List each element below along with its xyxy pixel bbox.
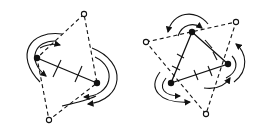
- left-flow-curve: [62, 96, 96, 106]
- open-vertex: [233, 19, 238, 24]
- filled-vertex: [34, 55, 40, 61]
- right-flow-curve: [155, 72, 190, 102]
- open-vertex: [46, 117, 51, 122]
- open-vertex: [81, 11, 86, 16]
- filled-vertex: [189, 29, 195, 35]
- left-dashed-dual: [37, 14, 97, 120]
- left-flow-arrow: [40, 44, 60, 48]
- left-panel: [27, 11, 117, 122]
- open-vertex: [143, 39, 148, 44]
- diagram-figure: [0, 0, 259, 132]
- filled-vertex: [168, 80, 174, 86]
- filled-vertex: [225, 61, 231, 67]
- left-solid-edge: [37, 58, 97, 83]
- right-panel: [143, 14, 244, 116]
- open-vertex: [203, 111, 208, 116]
- right-solid-triangle: [171, 32, 228, 83]
- left-tick: [53, 60, 61, 77]
- left-flow-curve: [84, 57, 109, 97]
- filled-vertex: [94, 80, 100, 86]
- right-flow-curve: [204, 78, 230, 88]
